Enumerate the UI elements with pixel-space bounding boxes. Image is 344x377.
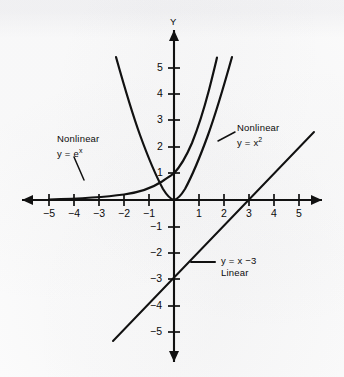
x-tick-label-neg2: −2 bbox=[118, 208, 130, 219]
y-tick-label-neg4: −4 bbox=[150, 300, 162, 311]
x-tick-label-neg5: −5 bbox=[43, 208, 55, 219]
x-tick-label-2: 2 bbox=[221, 208, 227, 219]
x-tick-label-neg3: −3 bbox=[93, 208, 105, 219]
curve-linear bbox=[113, 132, 314, 341]
y-tick-label-4: 4 bbox=[157, 88, 163, 99]
annotation-exponential-equation: y = e bbox=[57, 148, 79, 159]
annotation-linear-equation: y = x −3 bbox=[221, 255, 256, 267]
y-tick-label-3: 3 bbox=[157, 114, 163, 125]
leader-line-exponential bbox=[74, 157, 84, 180]
x-tick-label-4: 4 bbox=[271, 208, 277, 219]
y-tick-label-2: 2 bbox=[157, 141, 163, 152]
y-tick-label-5: 5 bbox=[157, 62, 163, 73]
annotation-linear: y = x −3 Linear bbox=[221, 255, 256, 278]
y-tick-label-neg1: −1 bbox=[150, 221, 162, 232]
annotation-linear-label: Linear bbox=[221, 267, 256, 279]
y-axis-arrow-up bbox=[169, 30, 179, 41]
y-tick-label-1: 1 bbox=[157, 167, 163, 178]
annotation-exponential-line1: Nonlinear bbox=[57, 133, 99, 145]
y-tick-label-neg5: −5 bbox=[150, 326, 162, 337]
x-tick-label-neg1: −1 bbox=[143, 208, 155, 219]
annotation-quadratic-equation: y = x bbox=[237, 137, 258, 148]
y-axis bbox=[169, 30, 179, 362]
x-axis-arrow-left bbox=[22, 195, 33, 205]
y-tick-label-neg3: −3 bbox=[150, 273, 162, 284]
x-tick-label-5: 5 bbox=[296, 208, 302, 219]
y-axis-arrow-down bbox=[169, 351, 179, 362]
y-axis-label: Y bbox=[170, 16, 177, 27]
leader-line-quadratic bbox=[218, 132, 235, 141]
annotation-quadratic-line1: Nonlinear bbox=[237, 122, 279, 134]
x-tick-label-neg4: −4 bbox=[68, 208, 80, 219]
x-tick-label-3: 3 bbox=[246, 208, 252, 219]
x-axis-arrow-right bbox=[311, 195, 322, 205]
figure-container: Y −5 −4 −3 −2 −1 1 2 3 4 5 5 4 3 2 1 −1 … bbox=[0, 0, 344, 377]
y-tick-label-neg2: −2 bbox=[150, 247, 162, 258]
annotation-quadratic-exponent: 2 bbox=[258, 136, 262, 143]
x-tick-label-1: 1 bbox=[196, 208, 202, 219]
curve-exponential bbox=[49, 58, 217, 200]
cartesian-plot bbox=[0, 0, 344, 377]
annotation-exponential-exponent: x bbox=[79, 147, 83, 154]
annotation-quadratic-line2: y = x2 bbox=[237, 134, 279, 149]
annotation-exponential: Nonlinear y = ex bbox=[57, 133, 99, 159]
annotation-exponential-line2: y = ex bbox=[57, 145, 99, 160]
annotation-quadratic: Nonlinear y = x2 bbox=[237, 122, 279, 148]
